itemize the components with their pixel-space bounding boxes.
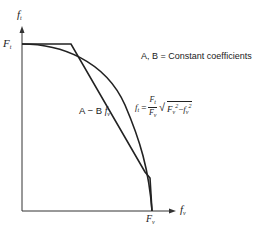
linear-curve-label: A − B fv bbox=[79, 106, 110, 117]
y-intercept-label: Ft bbox=[3, 38, 11, 50]
x-axis-arrow-icon bbox=[169, 209, 176, 214]
equation-lhs: ft bbox=[135, 103, 139, 113]
equals-sign: = bbox=[141, 103, 146, 112]
equation-fraction: Ft Fv bbox=[148, 95, 157, 120]
sqrt-icon: √ bbox=[159, 102, 165, 113]
elliptical-interaction-curve bbox=[22, 44, 152, 211]
x-intercept-label: Fv bbox=[146, 214, 155, 225]
elliptical-equation: ft = Ft Fv √Fv2−fv2 bbox=[135, 95, 192, 120]
linear-interaction-curve bbox=[22, 44, 152, 211]
diagram-canvas bbox=[0, 0, 268, 227]
coefficients-note: A, B = Constant coefficients bbox=[141, 52, 252, 61]
y-axis-label: ft bbox=[17, 9, 22, 21]
radicand: Fv2−fv2 bbox=[167, 101, 191, 115]
x-axis-label: fv bbox=[180, 204, 186, 216]
y-axis-arrow-icon bbox=[20, 26, 25, 33]
